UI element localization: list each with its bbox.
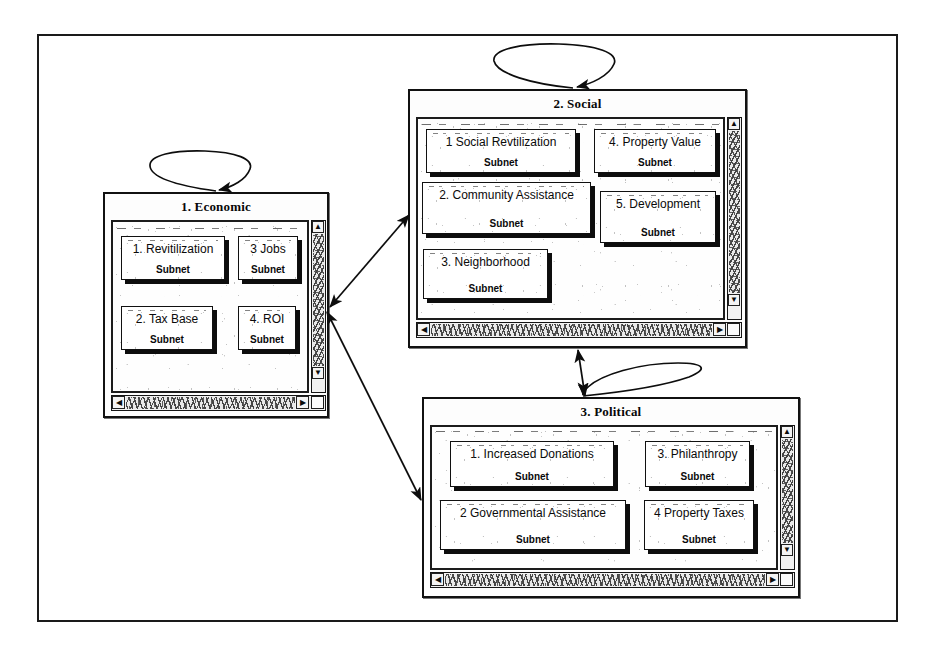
node-scan-artifact [652,445,743,446]
cluster-body-social: 1 Social Revtilization Subnet 4. Propert… [416,117,725,320]
node-label: 2. Tax Base [126,312,208,326]
anp-network-diagram: 1. Economic 1. Revitilization Subnet 3 J… [0,0,934,650]
node-label: 1 Social Revtilization [431,135,571,149]
node-soc-community-assistance[interactable]: 2. Community Assistance Subnet [422,182,591,234]
scrollbar-vertical-economic[interactable]: ▲ ▼ [311,220,326,393]
node-pol-increased-donations[interactable]: 1. Increased Donations Subnet [450,441,614,487]
node-scan-artifact [433,133,569,134]
scroll-up-arrow-icon[interactable]: ▲ [781,426,793,438]
node-econ-jobs[interactable]: 3 Jobs Subnet [238,236,298,280]
scroll-right-arrow-icon[interactable]: ▶ [296,396,309,409]
scroll-right-arrow-icon[interactable]: ▶ [766,573,779,586]
node-label: 4. ROI [243,312,291,326]
node-label: 2. Community Assistance [427,188,586,202]
scroll-down-arrow-icon[interactable]: ▼ [781,544,793,556]
node-pol-governmental-assistance[interactable]: 2 Governmental Assistance Subnet [440,500,626,550]
scrollbar-vertical-track[interactable] [782,439,793,543]
scan-artifact-line [436,431,772,432]
node-subnet-label: Subnet [455,471,609,482]
scroll-left-arrow-icon[interactable]: ◀ [112,396,125,409]
node-label: 3 Jobs [243,242,293,256]
scrollbar-horizontal-political[interactable]: ◀ ▶ [430,572,795,588]
node-econ-revitilization[interactable]: 1. Revitilization Subnet [121,236,225,280]
cluster-title-political: 3. Political [424,404,798,420]
scroll-left-arrow-icon[interactable]: ◀ [417,323,430,336]
scroll-down-arrow-icon[interactable]: ▼ [312,367,324,379]
cluster-title-social: 2. Social [410,96,745,112]
cluster-window-political[interactable]: 3. Political 1. Increased Donations Subn… [422,397,800,598]
node-scan-artifact [601,133,709,134]
node-subnet-label: Subnet [243,264,293,275]
node-label: 1. Revitilization [126,242,220,256]
node-scan-artifact [245,310,289,311]
node-soc-social-revtilization[interactable]: 1 Social Revtilization Subnet [426,129,576,173]
scroll-down-arrow-icon[interactable]: ▼ [728,294,740,306]
scrollbar-horizontal-social[interactable]: ◀ ▶ [416,322,742,338]
node-subnet-label: Subnet [427,218,586,229]
node-subnet-label: Subnet [605,227,711,238]
node-label: 4. Property Value [599,135,711,149]
node-subnet-label: Subnet [431,157,571,168]
node-scan-artifact [607,195,709,196]
cluster-window-economic[interactable]: 1. Economic 1. Revitilization Subnet 3 J… [103,192,329,418]
scrollbar-corner-box [311,396,324,409]
cluster-window-social[interactable]: 2. Social 1 Social Revtilization Subnet … [408,89,747,348]
node-scan-artifact [128,240,218,241]
node-scan-artifact [245,240,291,241]
scrollbar-vertical-political[interactable]: ▲ ▼ [780,425,795,570]
node-subnet-label: Subnet [126,334,208,345]
node-subnet-label: Subnet [599,157,711,168]
cluster-title-economic: 1. Economic [105,199,327,215]
node-soc-neighborhood[interactable]: 3. Neighborhood Subnet [423,249,548,299]
scrollbar-horizontal-track[interactable] [126,397,295,409]
node-soc-property-value[interactable]: 4. Property Value Subnet [594,129,716,173]
node-subnet-label: Subnet [650,471,745,482]
node-label: 2 Governmental Assistance [445,506,621,520]
node-subnet-label: Subnet [445,534,621,545]
scrollbar-horizontal-economic[interactable]: ◀ ▶ [111,395,326,411]
node-label: 3. Neighborhood [428,255,543,269]
scrollbar-corner-box [727,323,740,336]
node-subnet-label: Subnet [243,334,291,345]
node-pol-property-taxes[interactable]: 4 Property Taxes Subnet [644,500,754,550]
node-scan-artifact [447,504,619,505]
node-subnet-label: Subnet [428,283,543,294]
scroll-right-arrow-icon[interactable]: ▶ [713,323,726,336]
cluster-body-economic: 1. Revitilization Subnet 3 Jobs Subnet 2… [111,220,309,393]
node-pol-philanthropy[interactable]: 3. Philanthropy Subnet [645,441,750,487]
node-econ-tax-base[interactable]: 2. Tax Base Subnet [121,306,213,350]
node-subnet-label: Subnet [126,264,220,275]
node-scan-artifact [651,504,747,505]
scrollbar-horizontal-track[interactable] [445,574,765,586]
scan-artifact-line [422,124,719,125]
scroll-up-arrow-icon[interactable]: ▲ [728,118,740,130]
node-scan-artifact [457,445,607,446]
scrollbar-corner-box [780,573,793,586]
node-subnet-label: Subnet [649,534,749,545]
node-scan-artifact [429,186,584,187]
cluster-body-political: 1. Increased Donations Subnet 3. Philant… [430,425,778,570]
node-scan-artifact [430,253,541,254]
scrollbar-vertical-social[interactable]: ▲ ▼ [727,117,742,320]
node-label: 1. Increased Donations [455,447,609,461]
node-econ-roi[interactable]: 4. ROI Subnet [238,306,296,350]
node-label: 3. Philanthropy [650,447,745,461]
scrollbar-horizontal-track[interactable] [431,324,712,336]
node-scan-artifact [128,310,206,311]
scroll-up-arrow-icon[interactable]: ▲ [312,221,324,233]
scrollbar-vertical-track[interactable] [313,234,324,366]
scroll-left-arrow-icon[interactable]: ◀ [431,573,444,586]
scan-artifact-line [117,228,303,229]
node-soc-development[interactable]: 5. Development Subnet [600,191,716,243]
scrollbar-vertical-track[interactable] [729,131,740,293]
node-label: 4 Property Taxes [649,506,749,520]
node-label: 5. Development [605,197,711,211]
